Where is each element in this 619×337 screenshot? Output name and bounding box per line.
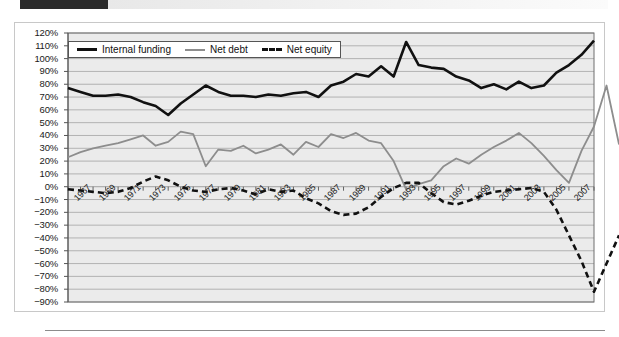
y-axis-tick-label: −80% — [14, 284, 58, 294]
legend-label-net-debt: Net debt — [210, 44, 248, 55]
footer-rule — [45, 330, 605, 331]
y-axis-tick-label: −20% — [14, 207, 58, 217]
y-axis-tick-label: 30% — [14, 143, 58, 153]
legend-label-internal-funding: Internal funding — [102, 44, 171, 55]
y-axis-tick-label: 40% — [14, 130, 58, 140]
legend-swatch-net-equity — [262, 48, 282, 51]
legend-swatch-net-debt — [185, 49, 205, 51]
y-axis-tick-label: 10% — [14, 169, 58, 179]
y-axis-tick-label: −50% — [14, 246, 58, 256]
y-axis-tick-label: 60% — [14, 105, 58, 115]
y-axis-tick-label: 110% — [14, 41, 58, 51]
y-axis-tick-label: −70% — [14, 271, 58, 281]
header-black-bar — [20, 0, 108, 9]
y-axis-tick-label: 120% — [14, 28, 58, 38]
y-axis-tick-label: −10% — [14, 195, 58, 205]
y-axis-tick-label: −30% — [14, 220, 58, 230]
y-axis-tick-label: 70% — [14, 92, 58, 102]
legend-swatch-internal-funding — [77, 48, 97, 51]
y-axis-tick-label: 20% — [14, 156, 58, 166]
y-axis-tick-label: 50% — [14, 118, 58, 128]
legend-item-net-debt: Net debt — [185, 44, 248, 55]
y-axis-tick-label: 0% — [14, 182, 58, 192]
y-axis-tick-label: −90% — [14, 297, 58, 307]
header-gradient-strip — [108, 0, 608, 9]
y-axis-tick-label: 90% — [14, 66, 58, 76]
legend-label-net-equity: Net equity — [287, 44, 332, 55]
chart-figure — [14, 22, 605, 312]
y-axis-tick-label: 80% — [14, 79, 58, 89]
chart-legend: Internal funding Net debt Net equity — [68, 41, 341, 58]
legend-item-net-equity: Net equity — [262, 44, 332, 55]
legend-item-internal-funding: Internal funding — [77, 44, 171, 55]
y-axis-tick-label: −60% — [14, 259, 58, 269]
y-axis-tick-label: 100% — [14, 54, 58, 64]
y-axis-tick-label: −40% — [14, 233, 58, 243]
